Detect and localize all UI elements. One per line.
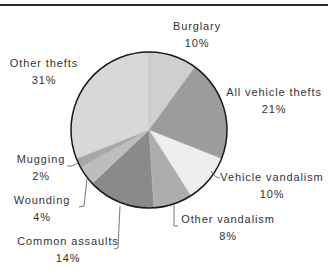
label-pct: 4% (10, 209, 74, 226)
label-burglary: Burglary 10% (167, 18, 227, 51)
leader-wounding (79, 179, 87, 207)
label-vehicle-vandalism: Vehicle vandalism 10% (218, 169, 326, 202)
label-all-vehicle-thefts: All vehicle thefts 21% (222, 84, 326, 117)
label-wounding: Wounding 4% (10, 192, 74, 225)
label-name: Other vandalism (180, 211, 276, 228)
label-common-assaults: Common assaults 14% (14, 233, 122, 266)
label-pct: 21% (222, 101, 326, 118)
label-name: Common assaults (14, 233, 122, 250)
label-other-vandalism: Other vandalism 8% (180, 211, 276, 244)
label-pct: 31% (4, 72, 84, 89)
label-name: All vehicle thefts (222, 84, 326, 101)
pie-slices (71, 52, 227, 208)
label-pct: 10% (218, 186, 326, 203)
label-pct: 14% (14, 250, 122, 267)
label-pct: 2% (14, 168, 68, 185)
label-name: Wounding (10, 192, 74, 209)
label-pct: 10% (167, 35, 227, 52)
label-name: Other thefts (4, 55, 84, 72)
label-name: Vehicle vandalism (218, 169, 326, 186)
label-name: Mugging (14, 151, 68, 168)
pie-chart: Burglary 10% All vehicle thefts 21% Othe… (0, 0, 328, 280)
label-name: Burglary (167, 18, 227, 35)
leader-other-vandalism (174, 205, 178, 226)
label-mugging: Mugging 2% (14, 151, 68, 184)
leader-mugging (67, 163, 78, 166)
label-pct: 8% (180, 228, 276, 245)
label-other-thefts: Other thefts 31% (4, 55, 84, 88)
